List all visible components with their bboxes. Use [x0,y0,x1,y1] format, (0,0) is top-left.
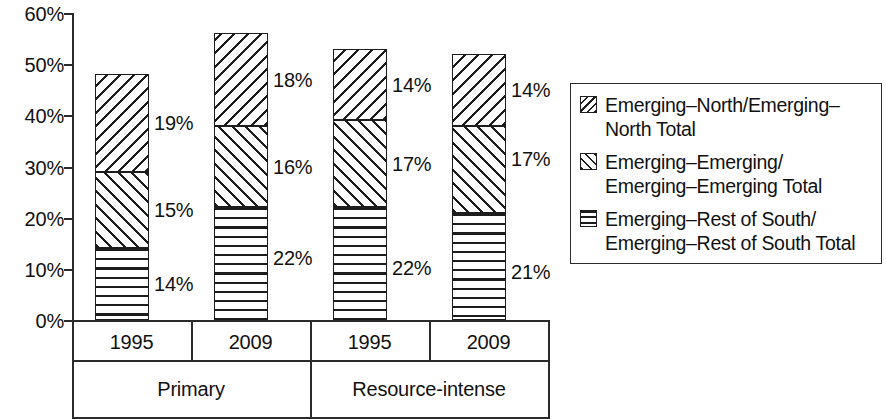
legend-item-label: Emerging–Emerging/ Emerging–Emerging Tot… [605,150,822,198]
data-label-emerging-north-0: 19% [154,113,193,133]
table-right-border [548,320,550,418]
legend-item-emerging-north[interactable]: Emerging–North/Emerging– North Total [580,93,840,141]
legend-item-label: Emerging–Rest of South/ Emerging–Rest of… [605,207,855,255]
y-tick-label-50: 50% [2,55,64,75]
data-label-emerging-emerging-3: 17% [511,149,550,169]
legend-item-emerging-rest-of-south[interactable]: Emerging–Rest of South/ Emerging–Rest of… [580,207,855,255]
x-category-label-2: 1995 [310,332,429,352]
stacked-bar-2 [333,0,387,320]
bar-segment-emerging-north [333,49,387,121]
x-group-label-resource-intense: Resource-intense [310,379,548,399]
data-label-emerging-rest-of-south-1: 22% [273,248,312,268]
bar-segment-emerging-rest-of-south [452,213,506,320]
y-tick-label-0: 0% [2,311,64,331]
bar-segment-emerging-rest-of-south [333,207,387,320]
bar-segment-emerging-north [95,74,149,171]
data-label-emerging-rest-of-south-3: 21% [511,262,550,282]
y-tick-mark-20 [64,218,73,220]
data-label-emerging-north-2: 14% [392,75,431,95]
y-tick-mark-10 [64,269,73,271]
bar-segment-emerging-north [214,33,268,125]
y-tick-label-20: 20% [2,209,64,229]
y-tick-label-30: 30% [2,158,64,178]
y-tick-label-10: 10% [2,260,64,280]
backslash-hatch-swatch-icon [580,96,597,113]
bar-segment-emerging-north [452,54,506,126]
chart-canvas: 60% 50% 40% 30% 20% 10% 0% 14%15%19%22%1… [0,0,886,419]
y-tick-mark-60 [64,13,73,15]
data-label-emerging-rest-of-south-0: 14% [154,274,193,294]
y-tick-label-40: 40% [2,106,64,126]
data-label-emerging-emerging-2: 17% [392,154,431,174]
bar-segment-emerging-emerging [333,120,387,207]
bar-segment-emerging-emerging [214,126,268,208]
x-category-label-0: 1995 [72,332,191,352]
x-category-label-3: 2009 [429,332,548,352]
data-label-emerging-emerging-1: 16% [273,157,312,177]
y-tick-mark-40 [64,115,73,117]
stacked-bar-0 [95,0,149,320]
data-label-emerging-rest-of-south-2: 22% [392,258,431,278]
stacked-bar-1 [214,0,268,320]
forward-slash-hatch-swatch-icon [580,153,597,170]
y-tick-label-60: 60% [2,4,64,24]
x-category-label-1: 2009 [191,332,310,352]
legend-item-emerging-emerging[interactable]: Emerging–Emerging/ Emerging–Emerging Tot… [580,150,822,198]
data-label-emerging-emerging-0: 15% [154,200,193,220]
x-group-label-primary: Primary [72,379,310,399]
bar-segment-emerging-emerging [452,126,506,213]
bar-segment-emerging-rest-of-south [95,248,149,320]
bar-segment-emerging-rest-of-south [214,207,268,320]
data-label-emerging-north-1: 18% [273,70,312,90]
stacked-bar-3 [452,0,506,320]
legend-box: Emerging–North/Emerging– North Total Eme… [570,83,882,264]
horizontal-lines-swatch-icon [580,210,597,227]
data-label-emerging-north-3: 14% [511,80,550,100]
y-tick-mark-30 [64,167,73,169]
y-tick-mark-50 [64,64,73,66]
bar-segment-emerging-emerging [95,172,149,249]
legend-item-label: Emerging–North/Emerging– North Total [605,93,840,141]
